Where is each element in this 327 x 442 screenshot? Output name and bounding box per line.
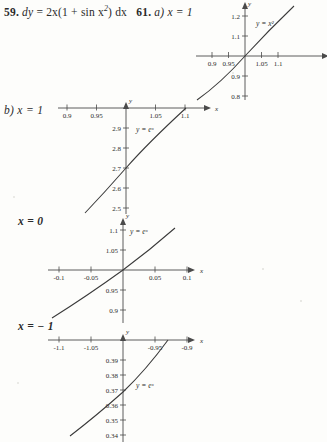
chart-y-equals-e-to-x-at-1: x y 0.9 0.95 1.05 1.1 2.9 2.8 2.7 2.6 2. [58,96,238,214]
curve-label: y = eˣ [129,227,148,236]
y-tick-label: 1.05 [106,247,119,255]
curve-path [85,108,186,213]
x-axis-title: x [199,337,204,345]
answer-61-part-a: a) x = 1 [154,6,192,18]
scan-speckle [17,382,19,384]
x-axis-arrow [188,337,195,343]
answer-59-tail: ) dx [108,6,127,18]
y-tick-label: 0.39 [106,357,119,365]
chart-y-equals-x-squared: y 0.9 0.95 1.05 1.1 1.2 1.1 0.9 0.8 y = … [196,0,327,100]
curve-label: y = x² [255,19,274,28]
x-tick-label: 0.95 [90,112,103,120]
y-axis-title: y [247,0,252,8]
x-axis-arrow [188,267,195,273]
y-tick-label: 2.6 [112,185,121,193]
y-tick-label: 0.35 [106,417,119,425]
scan-speckle [300,300,302,302]
y-tick-label: 2.8 [112,145,121,153]
x-tick-label: 0.1 [183,274,192,282]
x-axis-title: x [199,267,204,275]
x-tick-label: -0.05 [84,274,99,282]
x-tick-label: -0.95 [148,344,163,352]
y-tick-label: 1.1 [109,227,118,235]
y-axis-title: y [125,328,130,336]
x-axis-title: x [214,105,219,113]
x-tick-label: -0.1 [53,274,65,282]
curve-path [197,6,294,100]
y-tick-label: 0.34 [106,432,119,440]
curve-label: y = eˣ [135,125,154,134]
x-tick-label: 1.1 [181,112,190,120]
chart-y-equals-e-to-x-at-minus-1: x y -1.1 -1.05 -0.95 -0.9 0.39 0.38 0.37 [40,318,230,442]
x-tick-label: 1.05 [149,112,162,120]
x-axis-arrow [204,105,211,111]
y-tick-label: 0.9 [109,307,118,315]
x-tick-label: 1.05 [255,60,268,68]
x-tick-label: 1.1 [274,60,283,68]
y-tick-label: 2.9 [112,125,121,133]
scan-speckle [13,196,15,198]
answer-59-expression: = 2x(1 + sin x2) dx [36,6,127,18]
x-tick-label: -1.05 [84,344,99,352]
y-axis-title: y [128,97,133,105]
scan-speckle [262,268,264,270]
y-axis-title: y [125,212,130,220]
y-tick-label: 1.1 [231,33,240,41]
answer-59-differential: dy [22,6,33,18]
answer-line-59-61: 59. dy = 2x(1 + sin x2) dx 61. a) x = 1 [4,4,193,18]
x-tick-label: 0.9 [63,112,72,120]
x-tick-label: 0.05 [149,274,162,282]
y-tick-label: 2.7 [112,165,121,173]
case-label-b: b) x = 1 [4,104,43,116]
x-tick-label: 0.95 [222,60,235,68]
answer-key-page: 59. dy = 2x(1 + sin x2) dx 61. a) x = 1 … [0,0,327,442]
answer-number-59: 59. [4,6,19,18]
x-tick-label: -1.1 [53,344,65,352]
scan-speckle [232,72,234,74]
x-tick-label: -0.9 [181,344,193,352]
y-tick-label: 1.2 [231,13,240,21]
x-axis-arrow [322,53,327,59]
x-tick-label: 0.9 [208,60,217,68]
answer-number-61: 61. [136,6,151,18]
chart-y-equals-e-to-x-at-0: x y -0.1 -0.05 0.05 0.1 1.1 1.05 0.95 0.… [40,208,230,323]
curve-label: y = eˣ [135,381,154,390]
y-tick-label: 0.38 [106,372,119,380]
curve-path [52,228,175,318]
y-tick-label: 0.37 [106,387,119,395]
y-tick-label: 0.95 [106,287,119,295]
